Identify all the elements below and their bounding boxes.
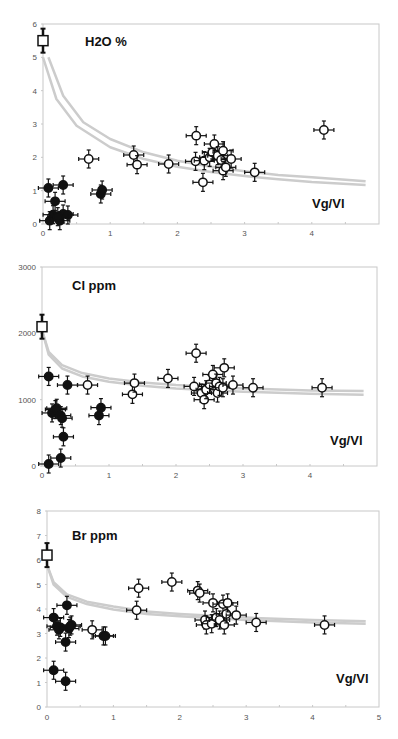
open-data-point [196, 589, 204, 597]
filled-data-point [61, 638, 69, 646]
x-axis-label: Vg/Vl [336, 671, 369, 686]
open-data-point [232, 611, 240, 619]
open-data-point [164, 160, 172, 168]
chart-panel-cl: 010002000300001234Cl ppmVg/Vl [0, 245, 398, 495]
y-tick-label: 2 [33, 153, 38, 162]
y-tick-label: 5 [33, 53, 38, 62]
x-axis-label: Vg/Vl [330, 433, 363, 448]
open-data-point [130, 379, 138, 387]
plot-frame [42, 267, 377, 466]
x-tick-label: 0 [41, 229, 46, 238]
filled-data-point [45, 460, 53, 468]
filled-data-point [63, 601, 71, 609]
h2o-scatter-chart: 012345601234H2O %Vg/Vl [0, 0, 398, 245]
y-tick-label: 7 [37, 532, 42, 541]
open-data-point [249, 384, 257, 392]
filled-data-point [95, 411, 103, 419]
open-data-point [164, 374, 172, 382]
x-tick-label: 3 [241, 471, 246, 480]
x-tick-label: 0 [40, 471, 45, 480]
x-tick-label: 3 [244, 713, 249, 722]
y-tick-label: 3000 [18, 263, 36, 272]
y-tick-label: 0 [32, 462, 37, 471]
filled-data-point [61, 677, 69, 685]
x-tick-label: 1 [108, 229, 113, 238]
y-tick-label: 3 [37, 630, 42, 639]
y-tick-label: 5 [37, 581, 42, 590]
open-data-point [220, 364, 228, 372]
open-data-point [200, 395, 208, 403]
open-data-point [199, 178, 207, 186]
filled-data-point [44, 184, 52, 192]
open-data-point [84, 155, 92, 163]
filled-data-point [49, 666, 57, 674]
filled-data-point [59, 181, 67, 189]
filled-data-point [54, 212, 62, 220]
open-data-point [133, 160, 141, 168]
open-data-point [222, 163, 230, 171]
chart-title: H2O % [85, 34, 127, 49]
x-tick-label: 1 [107, 471, 112, 480]
open-data-point [168, 578, 176, 586]
y-tick-label: 1 [37, 679, 42, 688]
y-tick-label: 1000 [18, 396, 36, 405]
open-data-point [191, 157, 199, 165]
open-data-point [320, 621, 328, 629]
chart-panel-br: 012345678012345Br ppmVg/Vl [0, 495, 398, 739]
filled-data-point [101, 632, 109, 640]
y-tick-label: 4 [33, 87, 38, 96]
initial-melt-marker [42, 550, 52, 560]
y-tick-label: 3 [33, 120, 38, 129]
x-tick-label: 2 [175, 229, 180, 238]
initial-melt-marker [38, 36, 48, 46]
x-tick-label: 4 [308, 471, 313, 480]
open-data-point [192, 131, 200, 139]
y-tick-label: 4 [37, 605, 42, 614]
open-data-point [250, 168, 258, 176]
filled-data-point [98, 186, 106, 194]
open-data-point [252, 618, 260, 626]
x-tick-label: 0 [45, 713, 50, 722]
open-data-point [83, 381, 91, 389]
filled-data-point [97, 403, 105, 411]
open-data-point [219, 146, 227, 154]
chart-title: Br ppm [72, 528, 118, 543]
y-tick-label: 1 [33, 187, 38, 196]
x-tick-label: 3 [242, 229, 247, 238]
filled-data-point [45, 372, 53, 380]
filled-data-point [66, 622, 74, 630]
y-tick-label: 6 [37, 556, 42, 565]
open-data-point [192, 349, 200, 357]
chart-title: Cl ppm [72, 278, 116, 293]
x-tick-label: 2 [174, 471, 179, 480]
x-axis-label: Vg/Vl [312, 196, 345, 211]
x-tick-label: 4 [310, 713, 315, 722]
open-data-point [227, 155, 235, 163]
y-tick-label: 6 [33, 20, 38, 29]
open-data-point [318, 384, 326, 392]
y-tick-label: 2 [37, 654, 42, 663]
x-tick-label: 1 [111, 713, 116, 722]
open-data-point [132, 606, 140, 614]
chart-panel-h2o: 012345601234H2O %Vg/Vl [0, 0, 398, 245]
filled-data-point [59, 433, 67, 441]
filled-data-point [51, 197, 59, 205]
br-scatter-chart: 012345678012345Br ppmVg/Vl [0, 495, 398, 739]
initial-melt-marker [37, 322, 47, 332]
x-tick-label: 2 [178, 713, 183, 722]
open-data-point [134, 584, 142, 592]
filled-data-point [63, 381, 71, 389]
open-data-point [320, 126, 328, 134]
cl-scatter-chart: 010002000300001234Cl ppmVg/Vl [0, 245, 398, 495]
open-data-point [223, 599, 231, 607]
open-data-point [220, 621, 228, 629]
y-tick-label: 8 [37, 507, 42, 516]
y-tick-label: 0 [37, 703, 42, 712]
y-tick-label: 0 [33, 220, 38, 229]
filled-data-point [58, 414, 66, 422]
x-tick-label: 5 [377, 713, 382, 722]
open-data-point [128, 390, 136, 398]
open-data-point [229, 381, 237, 389]
x-tick-label: 4 [310, 229, 315, 238]
y-tick-label: 2000 [18, 329, 36, 338]
